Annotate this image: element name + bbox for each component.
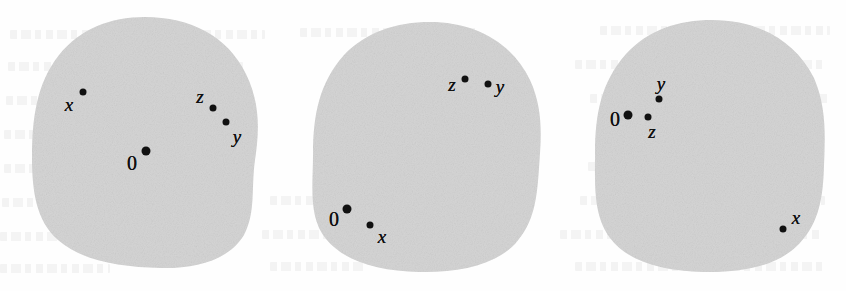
point-label-blob-right-origin: 0 bbox=[610, 109, 620, 129]
point-marker-blob-right-x bbox=[780, 226, 787, 233]
point-marker-blob-middle-z bbox=[462, 76, 469, 83]
blob-right-shape bbox=[0, 0, 846, 291]
point-marker-blob-left-z bbox=[210, 105, 217, 112]
point-marker-blob-right-y bbox=[656, 96, 663, 103]
point-marker-blob-middle-x bbox=[367, 222, 374, 229]
figure-canvas: 0xzy0xzy0zyx bbox=[0, 0, 846, 291]
point-marker-blob-right-z bbox=[645, 114, 652, 121]
point-label-blob-left-origin: 0 bbox=[127, 153, 137, 173]
point-marker-blob-left-x bbox=[80, 89, 87, 96]
point-label-blob-middle-y: y bbox=[496, 77, 504, 96]
point-marker-blob-left-origin bbox=[142, 147, 151, 156]
point-label-blob-left-y: y bbox=[233, 127, 241, 146]
point-label-blob-middle-origin: 0 bbox=[329, 209, 339, 229]
blob-right bbox=[0, 0, 846, 291]
point-marker-blob-right-origin bbox=[624, 111, 633, 120]
point-label-blob-middle-z: z bbox=[448, 75, 455, 94]
point-label-blob-middle-x: x bbox=[378, 227, 386, 246]
point-marker-blob-middle-y bbox=[485, 81, 492, 88]
point-label-blob-left-z: z bbox=[196, 87, 203, 106]
point-label-blob-left-x: x bbox=[65, 95, 73, 114]
point-marker-blob-middle-origin bbox=[343, 205, 352, 214]
point-marker-blob-left-y bbox=[223, 119, 230, 126]
point-label-blob-right-x: x bbox=[792, 208, 800, 227]
point-label-blob-right-y: y bbox=[657, 74, 665, 93]
point-label-blob-right-z: z bbox=[648, 122, 655, 141]
